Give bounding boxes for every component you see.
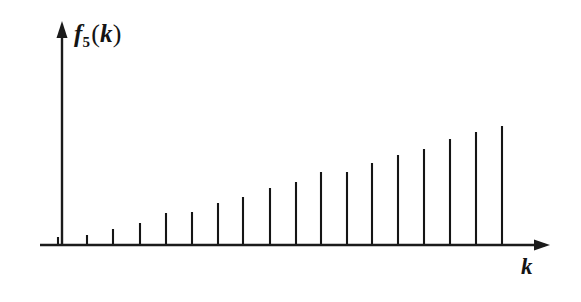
stem-plot-figure: f5(k) k (0, 0, 581, 302)
y-axis-label-close-paren: ) (113, 19, 122, 48)
y-axis-label-subscript: 5 (83, 34, 91, 50)
y-axis-arrowhead (57, 21, 68, 38)
x-axis-label: k (521, 255, 533, 278)
y-axis-label: f5(k) (74, 21, 122, 50)
y-axis-label-argument: k (100, 20, 113, 47)
y-axis-label-function: f (74, 20, 83, 47)
stem-series (58, 126, 502, 245)
y-axis-label-open-paren: ( (91, 19, 100, 48)
x-axis-arrowhead (534, 240, 550, 251)
